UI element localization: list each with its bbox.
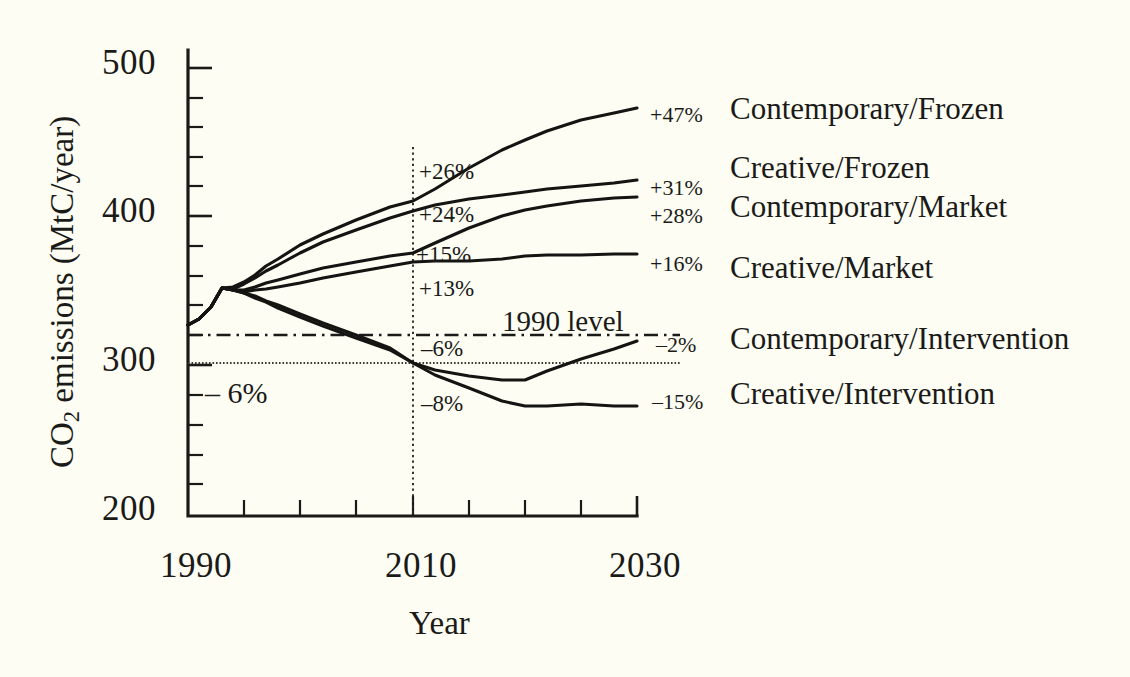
y-minor-ticks: [188, 98, 203, 484]
annotation-contemporary-frozen-2010: +26%: [419, 160, 474, 183]
legend-label-creative-frozen: Creative/Frozen: [730, 152, 930, 183]
x-ticks: [244, 496, 637, 516]
legend-label-creative-market: Creative/Market: [730, 252, 933, 283]
reference-label-1990-level: 1990 level: [502, 307, 624, 336]
x-axis-title: Year: [409, 607, 470, 640]
endpoint-pct-creative-frozen: +31%: [650, 177, 703, 199]
y-axis-title: CO2 emissions (MtC/year): [46, 116, 83, 468]
xtick-label-1990: 1990: [160, 548, 232, 583]
legend-label-contemporary-intervention: Contemporary/Intervention: [730, 323, 1069, 354]
endpoint-pct-creative-intervention: –15%: [652, 391, 703, 413]
figure-canvas: 200 300 400 500 1990 2010 2030 Year CO2 …: [0, 0, 1130, 677]
annotation-contemporary-intervention-2010: –6%: [421, 337, 463, 360]
y-axis-title-pre: CO: [44, 422, 80, 468]
legend-label-creative-intervention: Creative/Intervention: [730, 378, 995, 409]
endpoint-pct-creative-market: +16%: [650, 253, 703, 275]
ytick-label-300: 300: [102, 342, 156, 377]
series-contemporary-frozen: [188, 108, 637, 325]
ytick-label-200: 200: [102, 491, 156, 526]
y-axis-title-post: emissions (MtC/year): [44, 116, 80, 411]
annotation-creative-intervention-2010: –8%: [421, 392, 463, 415]
legend-label-contemporary-market: Contemporary/Market: [730, 191, 1007, 222]
endpoint-pct-contemporary-frozen: +47%: [650, 104, 703, 126]
legend-label-contemporary-frozen: Contemporary/Frozen: [730, 93, 1004, 124]
xtick-label-2010: 2010: [385, 548, 457, 583]
annotation-contemporary-market-2010: +15%: [416, 243, 471, 266]
annotation-creative-market-2010: +13%: [419, 277, 474, 300]
reference-label-minus6-target: – 6%: [205, 378, 268, 408]
ytick-label-500: 500: [102, 45, 156, 80]
annotation-creative-frozen-2010: +24%: [419, 203, 474, 226]
ytick-label-400: 400: [102, 193, 156, 228]
y-axis-title-subscript: 2: [59, 411, 84, 422]
endpoint-pct-contemporary-market: +28%: [650, 205, 703, 227]
y-major-ticks: [188, 68, 212, 365]
xtick-label-2030: 2030: [609, 548, 681, 583]
endpoint-pct-contemporary-intervention: –2%: [656, 334, 696, 356]
